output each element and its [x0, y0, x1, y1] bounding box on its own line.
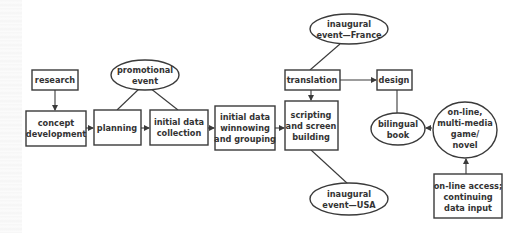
node-label: concept — [38, 118, 75, 128]
node-label: inaugural — [327, 19, 371, 29]
node-label: building — [292, 132, 330, 142]
node-design: design — [377, 70, 412, 90]
edge-scripting-usa — [311, 150, 348, 184]
node-label: bilingual — [378, 119, 418, 129]
node-label: novel — [452, 140, 477, 150]
node-label: and screen — [286, 121, 337, 131]
node-planning: planning — [94, 110, 141, 145]
node-label: on-line, — [448, 107, 483, 117]
node-label: multi-media — [437, 118, 493, 128]
node-label: initial data — [154, 117, 204, 127]
edge-france-translation — [310, 44, 340, 70]
flow-diagram: research concept development promotional… — [0, 0, 526, 233]
node-inaugural-event-usa: inaugural event—USA — [310, 183, 388, 215]
node-label: initial data — [220, 112, 270, 122]
node-label: on-line access; — [434, 181, 503, 191]
node-initial-data-collection: initial data collection — [150, 110, 208, 145]
node-online-game: on-line, multi-media game/ novel — [433, 102, 497, 158]
node-inaugural-event-france: inaugural event—France — [310, 14, 388, 44]
node-label: design — [379, 75, 410, 85]
node-label: research — [35, 75, 75, 85]
node-concept-development: concept development — [26, 111, 87, 146]
node-scripting: scripting and screen building — [285, 101, 338, 150]
node-label: translation — [287, 75, 338, 85]
node-label: winnowing — [220, 123, 270, 133]
node-label: promotional — [117, 65, 173, 75]
node-label: collection — [157, 128, 202, 138]
node-label: event — [132, 76, 158, 86]
node-label: development — [26, 129, 87, 139]
node-label: continuing — [443, 192, 492, 202]
node-initial-data-winnowing: initial data winnowing and grouping — [214, 106, 276, 150]
node-promotional-event: promotional event — [111, 60, 179, 90]
node-label: event—France — [316, 30, 382, 40]
node-research: research — [32, 70, 78, 90]
node-label: event—USA — [322, 200, 376, 210]
node-label: and grouping — [214, 134, 276, 144]
node-bilingual-book: bilingual book — [371, 113, 425, 145]
node-translation: translation — [285, 70, 340, 90]
node-label: planning — [97, 123, 137, 133]
edge-promo-collection — [150, 88, 178, 110]
node-label: scripting — [291, 110, 332, 120]
node-online-access: on-line access; continuing data input — [434, 174, 503, 218]
edge-promo-planning — [117, 88, 140, 110]
node-label: inaugural — [327, 189, 371, 199]
node-label: data input — [444, 203, 492, 213]
node-label: book — [387, 130, 410, 140]
node-label: game/ — [451, 129, 479, 139]
